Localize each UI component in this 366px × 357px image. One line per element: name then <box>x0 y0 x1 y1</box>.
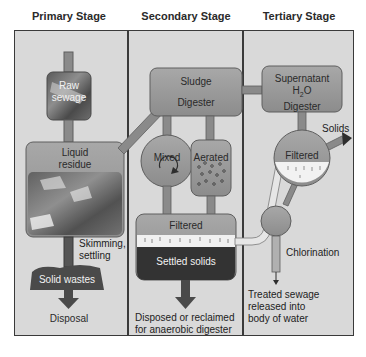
aerated-label: Aerated <box>191 152 231 164</box>
settling-label-line: settling <box>79 250 126 262</box>
raw-label-line: Raw <box>47 80 91 92</box>
release-arrow-icon <box>273 280 279 285</box>
solid-wastes-label: Solid wastes <box>30 274 104 286</box>
treated-sewage-label: Treated sewage released into body of wat… <box>248 289 319 325</box>
h2o-o: O <box>304 85 312 96</box>
chlorination-tank <box>261 206 291 236</box>
liquid-residue-label: Liquid residue <box>26 147 124 171</box>
raw-sewage-label: Raw sewage <box>47 80 91 104</box>
chlorination-label: Chlorination <box>286 247 339 259</box>
settled-solids-label: Settled solids <box>136 256 236 268</box>
disposal-label: Disposal <box>30 313 108 325</box>
sewage-label-line: sewage <box>47 92 91 104</box>
h2o-h: H <box>293 85 300 96</box>
sludge-label: Sludge <box>150 76 242 88</box>
liquid-label-line: Liquid <box>26 147 124 159</box>
aerated-tank <box>191 140 231 196</box>
disposed-arrow-icon <box>175 297 196 309</box>
released-label-line: released into <box>248 301 319 313</box>
h2o-label-line: H2O <box>262 85 342 101</box>
anaerobic-label-line: for anaerobic digester <box>135 324 235 336</box>
supernatant-digester-label: Supernatant H2O Digester <box>262 73 342 113</box>
skimming-settling-label: Skimming, settling <box>79 238 126 262</box>
mixed-label: Mixed <box>141 152 193 164</box>
tertiary-digester-label-line: Digester <box>262 101 342 113</box>
treated-label-line: Treated sewage <box>248 289 319 301</box>
disposal-arrow-icon <box>58 298 79 309</box>
body-of-water-label-line: body of water <box>248 313 319 325</box>
skimming-label-line: Skimming, <box>79 238 126 250</box>
disposed-label-line: Disposed or reclaimed <box>135 312 235 324</box>
disposed-reclaimed-label: Disposed or reclaimed for anaerobic dige… <box>135 312 235 336</box>
tertiary-filtered-label: Filtered <box>274 150 330 162</box>
secondary-filtered-label: Filtered <box>136 220 236 232</box>
solids-label: Solids <box>322 123 349 135</box>
supernatant-label-line: Supernatant <box>262 73 342 85</box>
sludge-digester-label: Digester <box>150 97 242 109</box>
residue-label-line: residue <box>26 159 124 171</box>
